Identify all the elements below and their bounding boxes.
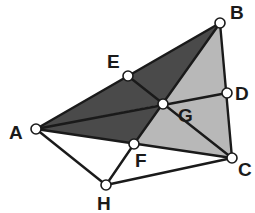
vertex-f <box>129 139 139 149</box>
vertex-b <box>215 18 225 28</box>
vertex-c <box>227 153 237 163</box>
vertex-a <box>31 124 41 134</box>
label-f: F <box>135 150 147 171</box>
label-g: G <box>178 105 193 126</box>
geometry-diagram: A B C D E F G H <box>0 0 255 213</box>
shaded-regions <box>36 23 232 158</box>
label-d: D <box>235 83 249 104</box>
vertex-d <box>222 88 232 98</box>
vertex-h <box>101 180 111 190</box>
vertex-e <box>123 71 133 81</box>
label-e: E <box>107 51 120 72</box>
label-a: A <box>9 122 23 143</box>
label-c: C <box>238 159 252 180</box>
vertex-g <box>158 99 168 109</box>
label-b: B <box>230 2 244 23</box>
segment-hc <box>106 158 232 185</box>
label-h: H <box>97 193 111 213</box>
